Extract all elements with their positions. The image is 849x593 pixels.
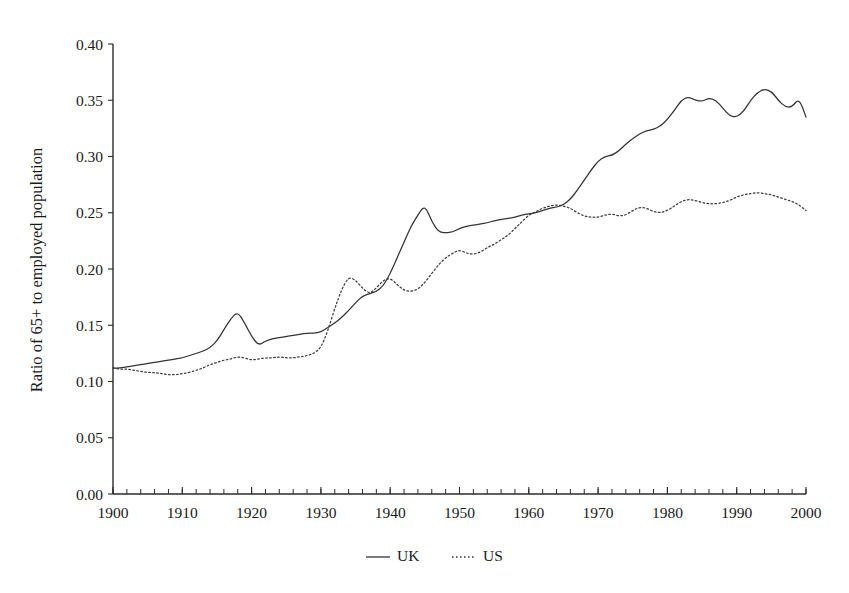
x-tick-label: 2000 bbox=[791, 504, 822, 521]
y-tick-label: 0.20 bbox=[76, 261, 103, 278]
x-tick-label: 1930 bbox=[305, 504, 336, 521]
series-line-us bbox=[113, 193, 806, 375]
y-tick-label: 0.05 bbox=[76, 429, 103, 446]
y-tick-label: 0.40 bbox=[76, 36, 103, 53]
y-tick-label: 0.10 bbox=[76, 373, 103, 390]
y-tick-label: 0.30 bbox=[76, 148, 103, 165]
line-chart: Ratio of 65+ to employed population 0.00… bbox=[0, 0, 849, 593]
y-tick-label: 0.25 bbox=[76, 204, 103, 221]
x-tick-label: 1900 bbox=[98, 504, 129, 521]
series-layer bbox=[113, 90, 806, 375]
x-tick-label: 1940 bbox=[375, 504, 406, 521]
y-tick-label: 0.00 bbox=[76, 486, 103, 503]
x-axis-ticks: 1900191019201930194019501960197019801990… bbox=[98, 487, 822, 521]
series-line-uk bbox=[113, 90, 806, 368]
x-tick-label: 1910 bbox=[167, 504, 198, 521]
legend-label-uk: UK bbox=[397, 547, 420, 564]
x-tick-label: 1920 bbox=[236, 504, 267, 521]
y-axis-ticks: 0.000.050.100.150.200.250.300.350.40 bbox=[76, 36, 113, 503]
y-tick-label: 0.15 bbox=[76, 317, 103, 334]
x-tick-label: 1970 bbox=[583, 504, 614, 521]
x-tick-label: 1980 bbox=[652, 504, 683, 521]
y-axis-title: Ratio of 65+ to employed population bbox=[27, 148, 46, 392]
chart-legend: UKUS bbox=[366, 547, 503, 564]
x-tick-label: 1960 bbox=[513, 504, 544, 521]
y-tick-label: 0.35 bbox=[76, 92, 103, 109]
legend-label-us: US bbox=[483, 547, 503, 564]
x-tick-label: 1990 bbox=[721, 504, 752, 521]
chart-figure: Ratio of 65+ to employed population 0.00… bbox=[0, 0, 849, 593]
x-tick-label: 1950 bbox=[444, 504, 475, 521]
